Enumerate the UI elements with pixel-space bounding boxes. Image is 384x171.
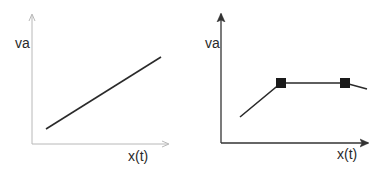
left-data-line: [46, 57, 161, 129]
left-plot: [32, 15, 168, 144]
square-marker-1: [276, 78, 286, 88]
left-x-axis-label: x(t): [128, 149, 148, 163]
right-x-axis-label: x(t): [337, 147, 357, 161]
diagram-canvas: [0, 0, 384, 171]
right-plot: [221, 14, 368, 143]
left-y-axis-label: va: [15, 36, 30, 50]
square-marker-2: [340, 78, 350, 88]
right-y-axis-label: va: [205, 36, 220, 50]
right-data-line: [240, 83, 367, 117]
